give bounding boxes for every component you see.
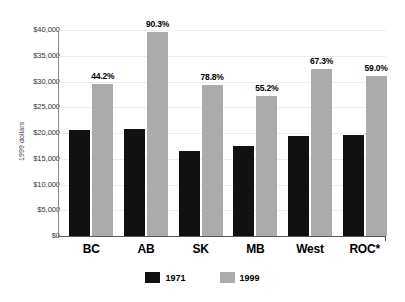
legend: 1971 1999 [0, 272, 405, 283]
legend-label-1999: 1999 [240, 273, 260, 283]
y-axis-tick-label: $5,000 [12, 205, 60, 214]
bar-1999-SK[interactable] [202, 85, 223, 236]
bar-chart: 1999 dollars $0$5,000$10,000$15,000$20,0… [0, 0, 405, 302]
bar-1971-SK[interactable] [179, 151, 200, 236]
y-axis-tick-label: $10,000 [12, 180, 60, 189]
bar-group [233, 30, 277, 236]
x-axis-end-tick [385, 236, 386, 241]
y-axis-tick-label: $35,000 [12, 51, 60, 60]
bar-group [124, 30, 168, 236]
bar-1999-MB[interactable] [256, 96, 277, 236]
bar-1999-West[interactable] [311, 69, 332, 236]
bar-1971-AB[interactable] [124, 129, 145, 236]
bar-1999-ROC*[interactable] [366, 76, 387, 236]
value-label-AB: 90.3% [123, 19, 193, 29]
legend-swatch-1971 [145, 272, 160, 283]
legend-item-1971: 1971 [145, 272, 185, 283]
y-axis-tick-label: $0 [12, 231, 60, 240]
y-axis-tick-label: $30,000 [12, 77, 60, 86]
bar-1971-BC[interactable] [69, 130, 90, 236]
legend-swatch-1999 [220, 272, 235, 283]
bar-1999-BC[interactable] [92, 84, 113, 236]
y-axis-title-label: 1999 dollars [18, 81, 25, 161]
value-label-MB: 55.2% [232, 83, 302, 93]
bar-1971-ROC*[interactable] [343, 135, 364, 236]
bar-group [179, 30, 223, 236]
bar-group [69, 30, 113, 236]
y-axis-tick-label: $40,000 [12, 25, 60, 34]
value-label-ROC*: 59.0% [341, 63, 405, 73]
value-label-BC: 44.2% [68, 71, 138, 81]
legend-item-1999: 1999 [220, 272, 260, 283]
bar-1971-West[interactable] [288, 136, 309, 236]
y-axis-tick-label: $20,000 [12, 128, 60, 137]
y-axis-line [58, 30, 59, 236]
y-axis-tick-label: $25,000 [12, 102, 60, 111]
legend-label-1971: 1971 [165, 273, 185, 283]
value-label-SK: 78.8% [177, 72, 247, 82]
bar-1971-MB[interactable] [233, 146, 254, 236]
bar-1999-AB[interactable] [147, 32, 168, 236]
y-axis-tick-label: $15,000 [12, 154, 60, 163]
x-axis-label-ROC*: ROC* [328, 242, 402, 256]
x-axis-line [58, 236, 386, 237]
